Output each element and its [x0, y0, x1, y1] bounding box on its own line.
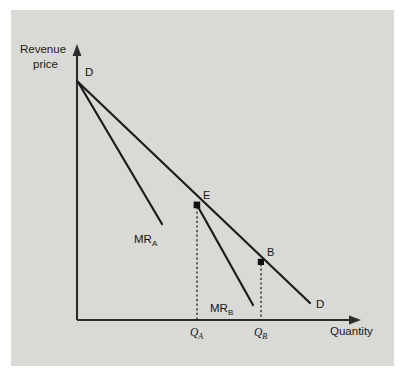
mr-b-label-base: MR — [210, 302, 228, 314]
mr-a-line — [78, 82, 162, 224]
y-axis-title-line2: price — [33, 58, 58, 70]
y-axis-title-line1: Revenue — [20, 43, 66, 55]
x-axis-arrowhead — [349, 316, 361, 325]
mr-a-curve-group: MRA — [78, 82, 162, 248]
point-marker-b — [258, 259, 264, 265]
point-label-e: E — [203, 189, 210, 201]
mr-b-line — [197, 205, 253, 305]
mr-a-label-subscript: A — [152, 239, 158, 248]
demand-curve-top-label: D — [85, 66, 93, 78]
y-axis-arrowhead — [73, 44, 82, 56]
demand-curve-line — [78, 82, 310, 303]
x-tick-label-qa: QA — [190, 326, 203, 341]
x-tick-qb-subscript: B — [262, 332, 267, 341]
mr-a-label-base: MR — [134, 233, 152, 245]
point-label-b: B — [267, 246, 274, 258]
economics-diagram: Revenue price Quantity D D MRA MRB — [0, 0, 403, 375]
x-tick-labels-group: QA QB — [190, 326, 267, 341]
mr-b-label-subscript: B — [228, 308, 233, 317]
mr-b-label: MRB — [210, 302, 233, 317]
demand-curve-end-label: D — [316, 298, 324, 310]
point-markers-group: E B — [194, 189, 275, 265]
x-tick-label-qb: QB — [254, 326, 267, 341]
point-marker-e — [194, 202, 201, 209]
mr-a-label: MRA — [134, 233, 158, 248]
x-tick-qa-subscript: A — [197, 332, 203, 341]
axes-group — [73, 44, 361, 324]
x-axis-title: Quantity — [330, 325, 373, 337]
figure-root: Revenue price Quantity D D MRA MRB — [0, 0, 403, 375]
demand-curve-group: D D — [78, 66, 324, 310]
axis-titles-group: Revenue price Quantity — [20, 43, 373, 337]
